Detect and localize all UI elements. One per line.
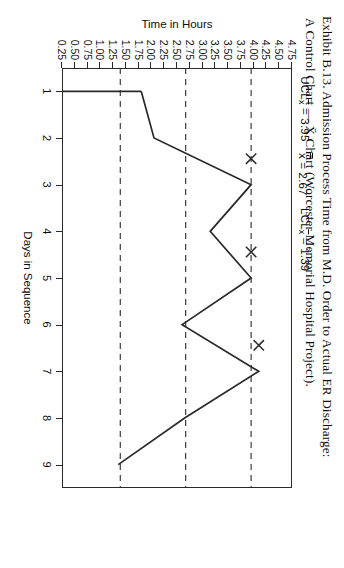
y-axis-tick-label: 1.50 — [120, 40, 132, 60]
x-axis-tick — [56, 465, 62, 466]
out-of-control-marker — [254, 340, 264, 350]
center-line-label-value: = 2.67 — [297, 159, 309, 196]
y-axis-tick-label: 0.75 — [82, 40, 94, 60]
y-axis-tick-label: 1.00 — [94, 40, 106, 60]
x-axis-tick — [56, 185, 62, 186]
out-of-control-marker — [246, 153, 256, 163]
y-axis-tick-label: 3.00 — [197, 40, 209, 60]
ucl-label: UCLx = 3.95 — [297, 76, 311, 141]
x-axis-tick — [56, 278, 62, 279]
y-axis-tick-label: 2.00 — [145, 40, 157, 60]
data-series-line — [118, 91, 259, 464]
plot-area — [62, 68, 292, 488]
x-axis-tick-label: 6 — [41, 322, 53, 328]
y-axis-tick-label: 3.50 — [222, 40, 234, 60]
y-axis-tick-label: 2.50 — [171, 40, 183, 60]
x-axis-tick — [56, 325, 62, 326]
y-axis-tick-label: 0.50 — [69, 40, 81, 60]
lcl-label-value: = 1.39 — [299, 234, 311, 271]
x-axis-title: Days in Sequence — [22, 231, 34, 324]
y-axis-tick-label: 2.25 — [158, 40, 170, 60]
ucl-label-prefix: UCL — [299, 76, 311, 100]
ucl-label-subscript: x — [297, 100, 307, 105]
lcl-label-prefix: LCL — [299, 208, 311, 230]
y-axis-tick-label: 0.25 — [56, 40, 68, 60]
rotated-page-stage: Exhibit B.13. Admission Process Time fro… — [0, 0, 344, 568]
plot-wrapper: 4.754.504.254.003.753.503.253.002.752.50… — [62, 68, 292, 488]
x-axis-tick-label: 9 — [41, 462, 53, 468]
lcl-label: LCLx = 1.39 — [297, 208, 311, 271]
x-axis-tick-label: 2 — [41, 135, 53, 141]
control-chart-svg — [62, 68, 292, 488]
y-axis-tick-label: 2.75 — [184, 40, 196, 60]
x-axis-tick — [56, 371, 62, 372]
x-axis-tick-label: 1 — [41, 88, 53, 94]
y-axis-title: Time in Hours — [141, 18, 212, 30]
center-line-label: x = 2.67 — [297, 153, 309, 196]
y-axis-tick-label: 4.75 — [286, 40, 298, 60]
x-axis-tick — [56, 418, 62, 419]
y-axis-tick-label: 1.75 — [133, 40, 145, 60]
x-axis-tick-label: 7 — [41, 368, 53, 374]
y-axis-tick-label: 3.75 — [235, 40, 247, 60]
x-axis-tick-label: 5 — [41, 275, 53, 281]
x-axis-tick — [56, 231, 62, 232]
y-axis-tick-label: 1.25 — [107, 40, 119, 60]
x-axis-tick — [56, 138, 62, 139]
y-axis-tick-label: 3.25 — [209, 40, 221, 60]
y-axis-tick-label: 4.25 — [260, 40, 272, 60]
y-axis-tick-label: 4.00 — [248, 40, 260, 60]
x-axis-tick-label: 4 — [41, 228, 53, 234]
y-axis-tick-label: 4.50 — [273, 40, 285, 60]
x-axis-tick — [56, 91, 62, 92]
figure: Exhibit B.13. Admission Process Time fro… — [0, 0, 344, 568]
center-line-label-symbol: x — [297, 153, 309, 159]
x-axis-tick-label: 3 — [41, 182, 53, 188]
caption-line-1: Exhibit B.13. Admission Process Time fro… — [319, 16, 336, 556]
lcl-label-subscript: x — [297, 230, 307, 235]
x-axis-tick-label: 8 — [41, 415, 53, 421]
ucl-label-value: = 3.95 — [299, 105, 311, 142]
